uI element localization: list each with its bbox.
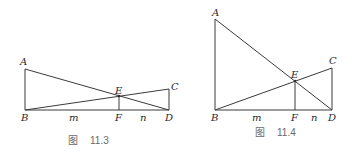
figure-caption-number: 11.4 (277, 127, 296, 138)
label-m: m (69, 112, 78, 123)
segment-bc (215, 68, 332, 110)
figure-caption-number: 11.3 (90, 135, 109, 146)
label-e: E (290, 69, 299, 80)
label-a: A (211, 7, 219, 18)
label-e: E (114, 85, 123, 96)
figure-11-3: A B C D E F m n 图 11.3 (19, 56, 179, 146)
label-f: F (114, 112, 123, 123)
point-e-dot (294, 80, 296, 82)
label-c: C (329, 55, 337, 66)
label-d: D (327, 112, 336, 123)
label-n: n (140, 112, 146, 123)
label-d: D (164, 112, 173, 123)
diagram-canvas: A B C D E F m n 图 11.3 A B C D E F m n 图… (0, 0, 352, 155)
label-a: A (19, 56, 27, 67)
label-c: C (171, 81, 179, 92)
label-m: m (252, 112, 261, 123)
label-b: B (20, 112, 28, 123)
label-f: F (290, 112, 299, 123)
segment-bc (25, 89, 169, 110)
label-n: n (311, 112, 317, 123)
segment-ad (215, 19, 332, 110)
figure-caption-prefix: 图 (255, 127, 265, 138)
label-b: B (210, 112, 218, 123)
figure-11-4: A B C D E F m n 图 11.4 (210, 7, 337, 138)
figure-caption-prefix: 图 (68, 135, 78, 146)
segment-ad (25, 69, 169, 110)
